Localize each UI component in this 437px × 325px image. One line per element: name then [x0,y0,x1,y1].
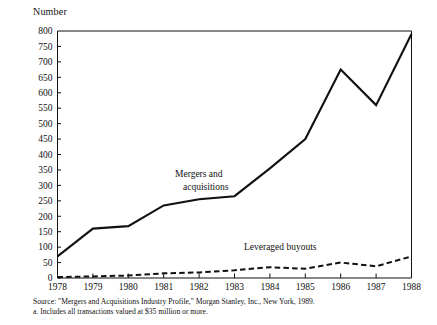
series-label-mergers-line2: acquisitions [183,182,229,192]
x-tick-label: 1978 [48,282,67,292]
y-tick-label: 550 [38,103,53,113]
series-label-leveraged-buyouts: Leveraged buyouts [244,242,317,252]
y-tick-label: 200 [38,212,53,222]
x-tick-mark-group [93,274,376,279]
y-tick-label: 150 [38,227,53,237]
y-tick-label: 250 [38,196,53,206]
x-tick-label: 1987 [367,282,386,292]
y-tick-label: 100 [38,242,53,252]
y-tick-label: 500 [38,119,53,129]
series-line-mergers-and-acquisitions [58,34,412,256]
y-tick-mark-group [58,46,62,278]
y-tick-label: 700 [38,57,53,67]
y-tick-label: 400 [38,150,53,160]
line-chart-svg: 0501001502002503003504004505005506006507… [0,0,437,325]
y-tick-label: 300 [38,181,53,191]
figure-container: Number 050100150200250300350400450500550… [0,0,437,325]
y-tick-label-group: 0501001502002503003504004505005506006507… [38,26,53,283]
y-tick-label: 50 [43,258,53,268]
series-label-mergers-line1: Mergers and [175,169,223,179]
footnote-a: a. Includes all transactions valued at $… [33,307,433,317]
y-tick-label: 350 [38,165,53,175]
y-tick-label: 450 [38,134,53,144]
x-tick-label-group: 1978197919801981198219831984198519861987… [48,282,421,292]
x-tick-label: 1981 [154,282,173,292]
x-tick-label: 1979 [83,282,102,292]
x-tick-label: 1985 [296,282,315,292]
y-tick-label: 650 [38,73,53,83]
x-tick-label: 1982 [190,282,209,292]
axis-frame [58,31,412,278]
y-tick-label: 750 [38,42,53,52]
x-tick-label: 1986 [331,282,350,292]
footnotes-block: Source: "Mergers and Acquisitions Indust… [33,297,433,316]
y-tick-label: 800 [38,26,53,36]
x-tick-label: 1988 [402,282,421,292]
x-tick-label: 1980 [119,282,138,292]
chart-plot-area: 0501001502002503003504004505005506006507… [0,0,437,325]
y-tick-label: 600 [38,88,53,98]
x-tick-label: 1983 [225,282,244,292]
source-note: Source: "Mergers and Acquisitions Indust… [33,297,433,307]
x-tick-label: 1984 [260,282,279,292]
